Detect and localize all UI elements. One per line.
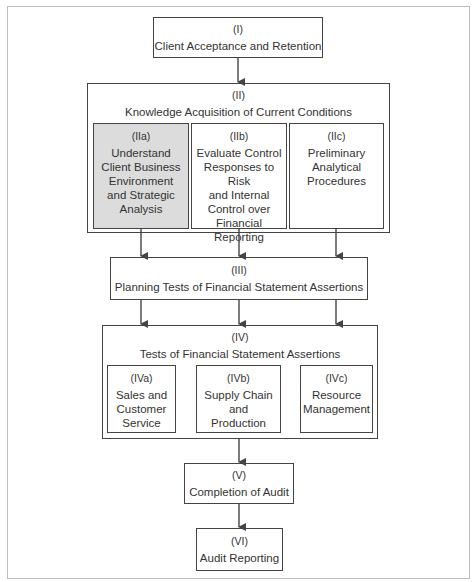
node-code: (IIa): [94, 130, 188, 143]
node-code: (IIb): [192, 130, 286, 143]
node-label-line: Analysis: [94, 202, 188, 216]
node-label: Completion of Audit: [185, 485, 293, 499]
node-label-line: Supply Chain: [197, 388, 280, 402]
node-iii-planning-tests: (III) Planning Tests of Financial Statem…: [110, 257, 368, 300]
node-label-line: Understand: [94, 146, 188, 160]
node-ivc-resource-management: (IVc) Resource Management: [300, 365, 373, 433]
node-code: (IV): [103, 331, 377, 344]
node-v-completion-of-audit: (V) Completion of Audit: [184, 463, 294, 504]
node-code: (IVc): [301, 372, 372, 385]
node-iva-sales-customer-service: (IVa) Sales and Customer Service: [107, 365, 176, 433]
node-label-line: Resource: [301, 388, 372, 402]
node-label-line: Management: [301, 402, 372, 416]
node-label: Audit Reporting: [197, 551, 282, 565]
node-iic-preliminary-analytical: (IIc) Preliminary Analytical Procedures: [289, 123, 384, 229]
node-label-line: Service: [108, 416, 175, 430]
node-code: (I): [154, 23, 322, 36]
node-label-line: Client Business: [94, 160, 188, 174]
node-label: Client Acceptance and Retention: [154, 39, 322, 53]
node-label-line: and Internal: [192, 188, 286, 202]
node-code: (VI): [197, 535, 282, 548]
node-vi-audit-reporting: (VI) Audit Reporting: [196, 528, 283, 571]
node-code: (IIc): [290, 130, 383, 143]
node-code: (IVb): [197, 372, 280, 385]
node-label-line: Environment: [94, 174, 188, 188]
node-label-line: Evaluate Control: [192, 146, 286, 160]
node-label: Planning Tests of Financial Statement As…: [111, 280, 367, 294]
node-label-line: and: [197, 402, 280, 416]
node-label-line: Control over: [192, 202, 286, 216]
node-code: (III): [111, 264, 367, 277]
node-label-line: Reporting: [192, 230, 286, 244]
node-label-line: Procedures: [290, 174, 383, 188]
node-label-line: Responses to Risk: [192, 160, 286, 188]
node-label-line: Customer: [108, 402, 175, 416]
node-label: Tests of Financial Statement Assertions: [103, 347, 377, 361]
node-iia-understand-client-business: (IIa) Understand Client Business Environ…: [93, 123, 189, 229]
node-code: (V): [185, 469, 293, 482]
node-code: (IVa): [108, 372, 175, 385]
node-label-line: Sales and: [108, 388, 175, 402]
node-ivb-supply-chain-production: (IVb) Supply Chain and Production: [196, 365, 281, 433]
node-iib-evaluate-control-responses: (IIb) Evaluate Control Responses to Risk…: [191, 123, 287, 229]
node-code: (II): [88, 89, 389, 102]
node-label: Knowledge Acquisition of Current Conditi…: [88, 105, 389, 119]
node-label-line: Preliminary: [290, 146, 383, 160]
node-label-line: and Strategic: [94, 188, 188, 202]
node-label-line: Analytical: [290, 160, 383, 174]
node-label-line: Financial: [192, 216, 286, 230]
node-label-line: Production: [197, 416, 280, 430]
node-i-client-acceptance: (I) Client Acceptance and Retention: [153, 17, 323, 58]
